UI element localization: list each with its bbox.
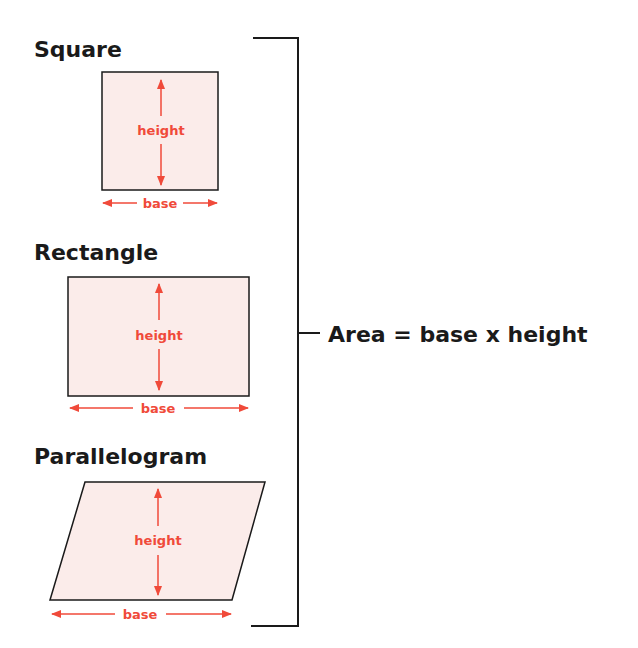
bracket bbox=[251, 38, 298, 626]
rectangle-title: Rectangle bbox=[34, 240, 158, 265]
rectangle-base-label: base bbox=[141, 401, 176, 416]
area-diagram: Square height base Rectangle height base… bbox=[0, 0, 638, 648]
parallelogram-height-label: height bbox=[134, 533, 181, 548]
square-base-label: base bbox=[143, 196, 178, 211]
parallelogram-title: Parallelogram bbox=[34, 444, 207, 469]
square-height-label: height bbox=[137, 123, 184, 138]
parallelogram-base-label: base bbox=[123, 607, 158, 622]
square-title: Square bbox=[34, 37, 122, 62]
area-formula: Area = base x height bbox=[328, 322, 588, 347]
rectangle-height-label: height bbox=[135, 328, 182, 343]
